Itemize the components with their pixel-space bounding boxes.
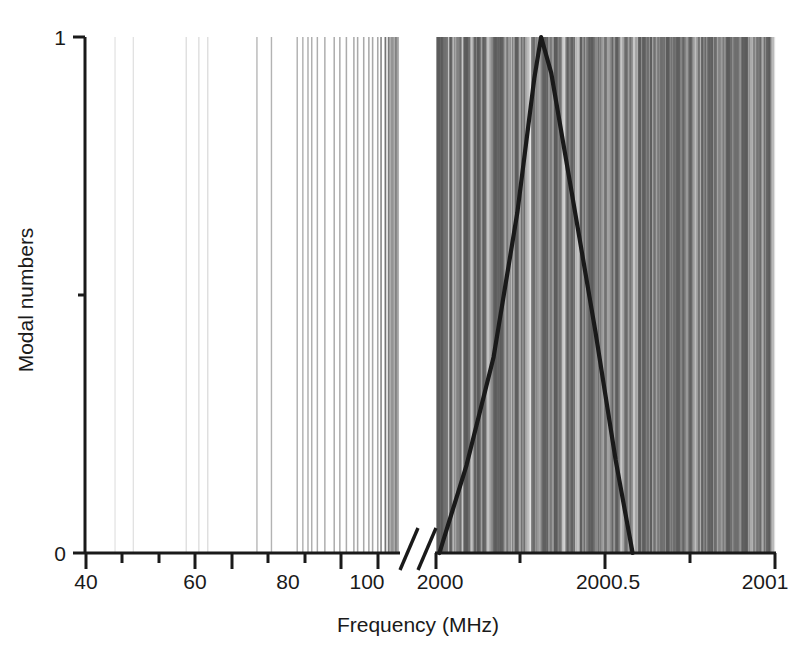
x-tick-label-2001: 2001 (742, 570, 789, 593)
x-tick-label-40: 40 (74, 570, 97, 593)
x-tick-label-100: 100 (349, 570, 384, 593)
modal-lines-right-panel (437, 37, 774, 553)
x-tick-label-80: 80 (276, 570, 299, 593)
x-tick-label-2000: 2000 (417, 570, 464, 593)
y-axis-title: Modal numbers (14, 228, 37, 373)
y-tick-label-0: 0 (54, 542, 66, 565)
x-tick-label-60: 60 (183, 570, 206, 593)
x-tick-label-2000-5: 2000.5 (576, 570, 640, 593)
y-tick-label-1: 1 (54, 26, 66, 49)
figure-container: 1 0 Modal numbers 40 60 80 100 (0, 0, 810, 656)
x-axis-title: Frequency (MHz) (337, 613, 499, 636)
modal-number-spectrum-chart: 1 0 Modal numbers 40 60 80 100 (0, 0, 810, 656)
